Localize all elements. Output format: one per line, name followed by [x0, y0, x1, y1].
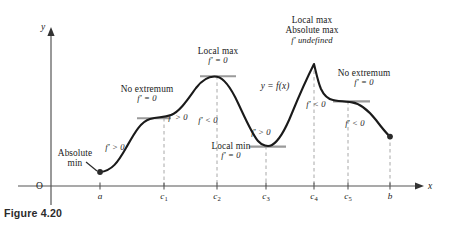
annotation-absolute-min: Absolute min	[58, 148, 92, 169]
curve-equation-label: y = f(x)	[261, 81, 290, 91]
curve-equation-text: y = f(x)	[261, 81, 290, 91]
tick-label-c3: c3	[262, 191, 270, 201]
annotation-absolute-min-line-1: Absolute	[58, 148, 92, 158]
annotation-local-min-c3: Local min f′ = 0	[212, 141, 251, 161]
derivative-sign-c5-b: f′ < 0	[345, 119, 364, 129]
tick-label-c1: c1	[160, 191, 168, 201]
annotation-absolute-min-line-2: min	[58, 158, 92, 168]
annotation-local-min-c3-line-2: f′ = 0	[212, 151, 251, 161]
annotation-local-max-c2: Local max f′ = 0	[198, 46, 238, 66]
tick-label-c3-sub: 3	[266, 195, 269, 202]
tick-label-c5-sub: 5	[348, 195, 351, 202]
annotation-local-max-absolute-max-c4: Local max Absolute max f′ undefined	[285, 15, 338, 45]
tick-label-c4-sub: 4	[314, 195, 317, 202]
annotation-local-max-c2-line-2: f′ = 0	[198, 56, 238, 66]
tick-label-b: b	[388, 191, 393, 201]
derivative-sign-c1-c2: f′ > 0	[168, 113, 187, 123]
tick-label-c5: c5	[344, 191, 352, 201]
y-axis-arrow	[47, 27, 54, 36]
calculus-figure: y x O y = f(x) a c1 c2 c3 c4 c5 b Absolu…	[0, 0, 452, 229]
annotation-no-extremum-c5: No extremum f′ = 0	[338, 68, 390, 88]
figure-canvas	[0, 0, 452, 229]
annotation-c4-line-3: f′ undefined	[285, 36, 338, 46]
annotation-c4-line-1: Local max	[285, 15, 338, 25]
figure-caption: Figure 4.20	[4, 207, 62, 219]
derivative-sign-c4-c5: f′ < 0	[306, 100, 325, 110]
x-axis-label: x	[428, 181, 432, 192]
origin-label: O	[36, 181, 43, 192]
tick-label-b-text: b	[388, 191, 393, 201]
endpoint-dot-b	[387, 134, 393, 140]
annotation-no-extremum-c1-line-2: f′ = 0	[121, 94, 173, 104]
tick-label-a-text: a	[98, 191, 103, 201]
tick-label-c2: c2	[213, 191, 221, 201]
tick-label-c1-sub: 1	[164, 195, 167, 202]
tick-label-c4: c4	[310, 191, 318, 201]
derivative-sign-c2-c3: f′ < 0	[198, 116, 217, 126]
annotation-no-extremum-c5-line-2: f′ = 0	[338, 78, 390, 88]
endpoint-dot-a	[97, 169, 103, 175]
y-axis-label: y	[41, 22, 45, 33]
annotation-no-extremum-c1: No extremum f′ = 0	[121, 84, 173, 104]
tick-label-a: a	[98, 191, 103, 201]
derivative-sign-c3-c4: f′ > 0	[251, 128, 270, 138]
x-axis-arrow	[415, 182, 424, 189]
derivative-sign-a-c1: f′ > 0	[105, 143, 124, 153]
tick-label-c2-sub: 2	[217, 195, 220, 202]
